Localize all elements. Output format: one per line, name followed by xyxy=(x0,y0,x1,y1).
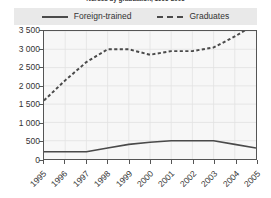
legend-label-foreign-trained: Foreign-trained xyxy=(74,12,132,21)
legend-label-graduates: Graduates xyxy=(189,12,229,21)
x-axis-labels: 1995199619971998199920002001200220032004… xyxy=(0,164,271,198)
y-axis-tick-label: 3 500 xyxy=(0,26,40,35)
plot-svg xyxy=(44,31,256,159)
plot-area xyxy=(43,30,257,160)
y-axis-tick-label: 1 000 xyxy=(0,119,40,128)
chart-title-strip: Nurses by graduation, 1995-2005 xyxy=(0,0,271,7)
page-title: Nurses by graduation, 1995-2005 xyxy=(0,0,271,2)
line-chart: Nurses by graduation, 1995-2005 Foreign-… xyxy=(0,0,271,198)
legend-item-foreign-trained: Foreign-trained xyxy=(42,12,132,21)
legend-entries: Foreign-trained Graduates xyxy=(14,8,257,25)
legend-item-graduates: Graduates xyxy=(157,12,229,21)
y-axis-tick-label: 2 000 xyxy=(0,81,40,90)
y-axis-labels: 05001 0001 5002 0002 5003 0003 500 xyxy=(0,30,40,160)
y-axis-tick-label: 0 xyxy=(0,156,40,165)
y-axis-tick-label: 3 000 xyxy=(0,44,40,53)
y-axis-tick-label: 2 500 xyxy=(0,63,40,72)
dashed-line-swatch-icon xyxy=(157,16,183,18)
y-axis-tick-label: 1 500 xyxy=(0,100,40,109)
chart-legend: Foreign-trained Graduates xyxy=(14,8,257,25)
y-axis-tick-label: 500 xyxy=(0,137,40,146)
solid-line-swatch-icon xyxy=(42,16,68,18)
